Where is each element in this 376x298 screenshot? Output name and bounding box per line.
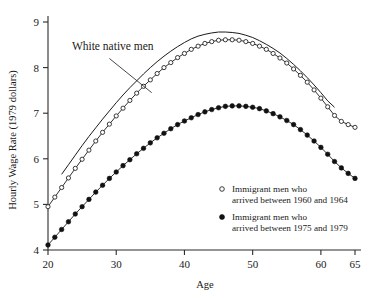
data-point-filled [182,119,187,124]
y-axis-title: Hourly Wage Rate (1979 dollars) [7,70,19,210]
data-point-open [182,51,186,55]
legend-label-line2: arrived between 1960 and 1964 [232,195,348,205]
data-point-filled [148,141,153,146]
data-point-open [312,88,316,92]
data-point-filled [216,105,221,110]
data-point-filled [128,157,133,162]
data-point-filled [80,204,85,209]
data-point-open [292,67,296,71]
data-point-filled [53,235,58,240]
data-point-filled [223,104,228,109]
data-point-filled [291,122,296,127]
data-point-open [230,38,234,42]
data-point-filled [100,183,105,188]
y-axis-tick-label: 8 [34,62,40,74]
y-axis-tick-label: 6 [34,153,40,165]
x-axis-title: Age [196,279,214,290]
y-axis-tick-label: 7 [34,107,40,119]
x-axis-tick-label: 50 [247,258,259,270]
data-point-open [100,130,104,134]
y-axis-tick-label: 4 [34,244,40,256]
data-point-open [121,106,125,110]
data-point-filled [298,127,303,132]
data-point-open [237,38,241,42]
data-point-filled [87,197,92,202]
data-point-filled [209,107,214,112]
data-point-open [128,98,132,102]
data-point-filled [319,145,324,150]
data-point-open [107,122,111,126]
data-point-filled [59,227,64,232]
data-point-filled [346,171,351,176]
data-point-open [346,123,350,127]
x-axis-tick-label: 60 [315,258,327,270]
data-point-filled [93,190,98,195]
data-point-open [298,73,302,77]
data-point-filled [189,115,194,120]
data-point-filled [169,126,174,131]
x-axis-tick-label: 30 [111,258,123,270]
x-axis-tick-label: 65 [350,258,362,270]
data-point-filled [312,139,317,144]
data-point-open [244,40,248,44]
data-point-filled [46,243,51,248]
data-point-filled [162,131,167,136]
data-point-open [196,44,200,48]
data-point-open [155,71,159,75]
data-point-open [135,91,139,95]
data-point-open [46,205,50,209]
legend-label-line2: arrived between 1975 and 1979 [232,223,348,233]
annotation-white-native-men: White native men [72,40,154,52]
data-point-filled [250,105,255,110]
data-point-filled [155,136,160,141]
data-point-open [257,44,261,48]
data-point-open [339,119,343,123]
data-point-open [189,47,193,51]
data-point-filled [175,122,180,127]
legend-marker-open-circle [220,187,225,192]
data-point-filled [353,176,358,181]
data-point-open [169,60,173,64]
data-point-filled [305,133,310,138]
data-point-filled [66,219,71,224]
x-axis-tick-label: 40 [179,258,191,270]
data-point-open [162,66,166,70]
y-axis-tick-label: 9 [34,16,40,28]
legend-label-line1: Immigrant men who [232,184,307,194]
legend-label-line1: Immigrant men who [232,212,307,222]
data-point-open [148,78,152,82]
data-point-open [223,38,227,42]
data-point-filled [141,146,146,151]
y-axis-tick-label: 5 [34,198,40,210]
data-point-filled [284,118,289,123]
data-point-open [73,166,77,170]
data-point-open [66,176,70,180]
data-point-open [353,125,357,129]
data-point-open [332,113,336,117]
data-point-filled [244,104,249,109]
data-point-filled [271,111,276,116]
data-point-open [210,40,214,44]
data-point-open [114,114,118,118]
data-point-filled [264,109,269,114]
data-point-filled [237,104,242,109]
data-point-open [326,105,330,109]
x-axis-tick-label: 20 [43,258,55,270]
data-point-filled [134,151,139,156]
data-point-open [60,185,64,189]
data-point-open [216,38,220,42]
data-point-filled [114,170,119,175]
data-point-filled [339,166,344,171]
data-point-open [80,157,84,161]
data-point-filled [203,110,208,115]
data-point-open [278,56,282,60]
data-point-open [176,55,180,59]
data-point-open [285,61,289,65]
wage-age-line-chart: 456789 203040506065 White native men Imm… [0,0,376,298]
chart-figure: 456789 203040506065 White native men Imm… [0,0,376,298]
data-point-open [53,195,57,199]
data-point-open [305,80,309,84]
data-point-open [251,41,255,45]
legend-marker-filled-circle [220,215,225,220]
data-point-filled [73,212,78,217]
